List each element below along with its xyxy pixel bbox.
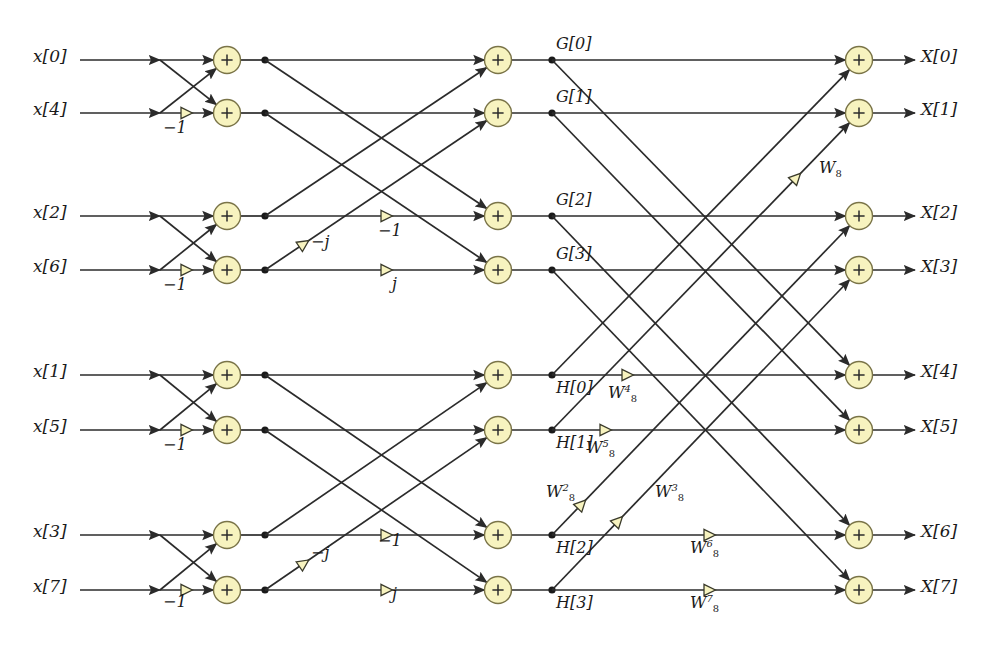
twiddle-sub: 8	[609, 448, 615, 459]
output-label-X3: X[3]	[921, 258, 957, 275]
stage2-multiplier-marker-j-g0	[381, 264, 392, 275]
input-label-x6: x[6]	[33, 258, 67, 275]
twiddle-base: W	[819, 158, 835, 177]
adder-stage2-7	[485, 577, 512, 604]
stage3-twiddle-label-W8-5: W58	[586, 440, 615, 456]
output-label-X1: X[1]	[921, 101, 957, 118]
twiddle-base: W	[690, 593, 706, 612]
adder-stage2-3	[485, 257, 512, 284]
intermediate-label-G3: G[3]	[556, 246, 591, 262]
output-label-X4: X[4]	[921, 363, 957, 380]
twiddle-sup: 6	[706, 538, 712, 549]
adder-stage2-6	[485, 522, 512, 549]
twiddle-base: W	[546, 482, 562, 501]
adder-stage3-7	[846, 577, 873, 604]
twiddle-base: W	[690, 538, 706, 557]
twiddle-sup: 4	[624, 383, 630, 394]
input-label-x5: x[5]	[33, 418, 67, 435]
stage1-mult-label-r1: −1	[163, 120, 187, 136]
stage1-mult-label-r3: −1	[163, 277, 187, 293]
stage3-twiddle-marker-horizontal-row5	[600, 424, 611, 435]
stage1-multiplier-marker-row1	[181, 107, 192, 118]
twiddle-sup: 5	[602, 438, 608, 449]
stage2-multiplier-marker-minusj-g0	[296, 236, 312, 252]
adder-stage3-5	[846, 417, 873, 444]
adder-stage2-1	[485, 100, 512, 127]
stage2-mult-label-minusj-upper: −j	[311, 234, 329, 250]
adder-stage2-4	[485, 362, 512, 389]
output-label-X5: X[5]	[921, 418, 957, 435]
stage2-mult-label-minus1-lower: −1	[378, 533, 402, 549]
input-label-x0: x[0]	[33, 48, 67, 65]
stage2-multiplier-marker-minusj-g1	[296, 555, 312, 571]
twiddle-sub: 8	[631, 393, 637, 404]
fft-butterfly-diagram: x[0] x[4] x[2] x[6] x[1] x[5] x[3] x[7] …	[0, 0, 999, 647]
intermediate-label-G0: G[0]	[556, 36, 591, 52]
intermediate-label-G1: G[1]	[556, 89, 591, 105]
stage2-mult-label-j-lower: j	[392, 586, 397, 602]
intermediate-label-H0: H[0]	[556, 380, 593, 396]
stage1-multiplier-marker-row5	[181, 424, 192, 435]
twiddle-sup: 7	[706, 593, 712, 604]
stage2-multiplier-marker-j-g1	[381, 584, 392, 595]
stage3-twiddle-label-W8-3: W38	[655, 484, 684, 500]
stage3-twiddle-label-W8-6: W68	[690, 540, 719, 556]
input-label-x7: x[7]	[33, 578, 67, 595]
stage1-mult-label-r5: −1	[163, 437, 187, 453]
stage2-mult-label-minus1-upper: −1	[378, 223, 402, 239]
adder-stage3-2	[846, 203, 873, 230]
stage2-multiplier-marker-minus1-g0	[381, 210, 392, 221]
twiddle-sup: 3	[671, 482, 677, 493]
twiddle-sub: 8	[678, 492, 684, 503]
adder-stage3-3	[846, 257, 873, 284]
stage3-twiddle-label-W8-4: W48	[608, 385, 637, 401]
stage1-multiplier-marker-row3	[181, 264, 192, 275]
stage3-twiddle-label-W8-2: W28	[546, 484, 575, 500]
output-label-X6: X[6]	[921, 523, 957, 540]
adder-stage1-5	[214, 417, 241, 444]
adder-stage2-5	[485, 417, 512, 444]
input-label-x1: x[1]	[33, 363, 67, 380]
input-label-x3: x[3]	[33, 523, 67, 540]
twiddle-sub: 8	[835, 168, 841, 179]
adder-stage2-0	[485, 47, 512, 74]
stage2-mult-label-j-upper: j	[392, 276, 397, 292]
output-label-X7: X[7]	[921, 578, 957, 595]
stage3-twiddle-marker-horizontal-row4	[622, 369, 633, 380]
adder-stage1-1	[214, 100, 241, 127]
adder-stage1-2	[214, 203, 241, 230]
stage1-mult-label-r7: −1	[163, 594, 187, 610]
adder-stage3-4	[846, 362, 873, 389]
twiddle-base: W	[608, 383, 624, 402]
fft-signal-flow-graph	[0, 0, 999, 647]
input-label-x4: x[4]	[33, 101, 67, 118]
output-label-X0: X[0]	[921, 48, 957, 65]
adder-stage1-0	[214, 47, 241, 74]
twiddle-base: W	[655, 482, 671, 501]
adder-stage3-0	[846, 47, 873, 74]
adder-stage1-6	[214, 522, 241, 549]
adder-stage2-2	[485, 203, 512, 230]
stage2-mult-label-minusj-lower: −j	[311, 545, 329, 561]
adder-stage3-6	[846, 522, 873, 549]
stage3-twiddle-label-W8-7: W78	[690, 595, 719, 611]
intermediate-label-G2: G[2]	[556, 192, 591, 208]
twiddle-sup: 2	[562, 482, 568, 493]
stage3-twiddle-label-W8: W8	[819, 160, 842, 176]
input-label-x2: x[2]	[33, 204, 67, 221]
adder-stage1-4	[214, 362, 241, 389]
twiddle-sub: 8	[569, 492, 575, 503]
output-label-X2: X[2]	[921, 204, 957, 221]
adder-stage1-3	[214, 257, 241, 284]
adder-stage1-7	[214, 577, 241, 604]
adder-stage3-1	[846, 100, 873, 127]
intermediate-label-H3: H[3]	[556, 595, 593, 611]
twiddle-sub: 8	[713, 603, 719, 614]
twiddle-sub: 8	[713, 548, 719, 559]
twiddle-base: W	[586, 438, 602, 457]
intermediate-label-H2: H[2]	[556, 540, 593, 556]
